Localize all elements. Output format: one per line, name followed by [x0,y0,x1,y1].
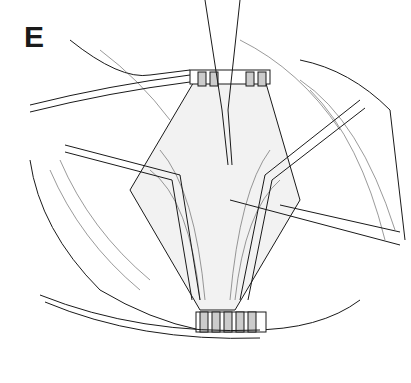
surgical-illustration [0,0,411,383]
